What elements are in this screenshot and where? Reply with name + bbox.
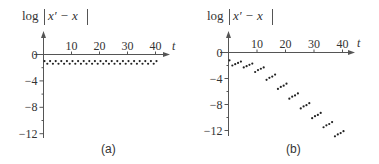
x-tick-label: 40 (337, 37, 349, 51)
data-point (147, 63, 149, 65)
data-point (97, 63, 99, 65)
data-point (63, 63, 65, 65)
x-tick-label: 10 (251, 37, 263, 51)
data-point (334, 135, 336, 137)
data-point (231, 64, 233, 66)
data-point (305, 104, 307, 106)
data-point (133, 60, 135, 62)
data-point (150, 60, 152, 62)
x-ticks: 10203040 (251, 37, 349, 53)
data-point (122, 60, 124, 62)
data-point (280, 86, 282, 88)
x-axis-arrow-icon (163, 52, 170, 57)
x-tick-label: 20 (94, 39, 106, 53)
data-point (291, 96, 293, 98)
data-point (139, 60, 141, 62)
data-point (331, 121, 333, 123)
data-point (274, 74, 276, 76)
data-point (85, 63, 87, 65)
data-point (325, 124, 327, 126)
y-tick-label: −4 (210, 72, 223, 86)
y-axis-label-log: log (207, 8, 224, 23)
x-tick-label: 30 (122, 39, 134, 53)
x-tick-label: 20 (280, 37, 292, 51)
data-point (105, 60, 107, 62)
data-point (125, 63, 127, 65)
data-point (243, 66, 245, 68)
data-point (77, 60, 79, 62)
y-ticks: 0−4−8−12 (19, 48, 44, 141)
y-axis-label-expr: x′ − x (47, 8, 78, 23)
data-point (127, 60, 129, 62)
data-point (66, 60, 68, 62)
data-point (80, 63, 82, 65)
y-tick-label: −4 (25, 74, 38, 88)
data-point (337, 133, 339, 135)
data-point (144, 60, 146, 62)
y-tick-label: −8 (210, 98, 223, 112)
data-point (294, 94, 296, 96)
data-point (303, 105, 305, 107)
data-point (271, 75, 273, 77)
data-point (260, 68, 262, 70)
data-point (60, 60, 62, 62)
data-point (308, 102, 310, 104)
data-point (153, 63, 155, 65)
data-point (283, 85, 285, 87)
data-point (155, 60, 157, 62)
data-point (52, 63, 54, 65)
data-point (111, 60, 113, 62)
data-point (317, 114, 319, 116)
y-tick-label: 0 (217, 46, 223, 60)
data-point (113, 63, 115, 65)
panel-caption: (b) (286, 142, 301, 156)
y-axis-label-expr: x′ − x (232, 8, 263, 23)
data-point (320, 112, 322, 114)
data-point (88, 60, 90, 62)
x-ticks: 10203040 (66, 39, 162, 55)
y-tick-label: −8 (25, 100, 38, 114)
data-point (130, 63, 132, 65)
data-point (263, 66, 265, 68)
y-axis-arrow-icon (41, 31, 46, 38)
data-point (46, 63, 48, 65)
data-points (43, 60, 157, 65)
data-point (297, 92, 299, 94)
data-point (311, 117, 313, 119)
data-point (246, 65, 248, 67)
x-axis-arrow-icon (348, 50, 355, 55)
y-tick-label: −12 (204, 124, 223, 138)
y-axis-arrow-icon (226, 31, 231, 38)
data-point (288, 98, 290, 100)
data-point (69, 63, 71, 65)
data-point (268, 77, 270, 79)
x-tick-label: 40 (150, 39, 162, 53)
data-point (248, 64, 250, 66)
y-tick-label: 0 (32, 48, 38, 62)
panel-caption: (a) (101, 142, 116, 156)
panel-a: log x′ − x t 10203040 0−4−8−12 (a) (19, 8, 176, 156)
data-point (300, 107, 302, 109)
data-point (340, 132, 342, 134)
data-point (108, 63, 110, 65)
data-points (228, 59, 344, 137)
data-point (71, 60, 73, 62)
data-point (228, 59, 230, 61)
data-point (277, 88, 279, 90)
y-tick-label: −12 (19, 127, 38, 141)
data-point (102, 63, 104, 65)
data-point (265, 79, 267, 81)
data-point (251, 62, 253, 64)
x-axis-label: t (172, 39, 176, 53)
data-point (285, 83, 287, 85)
data-point (136, 63, 138, 65)
x-tick-label: 30 (308, 37, 320, 51)
data-point (94, 60, 96, 62)
data-point (257, 69, 259, 71)
y-ticks: 0−4−8−12 (204, 46, 229, 138)
figure: log x′ − x t 10203040 0−4−8−12 (a) log x… (0, 0, 379, 164)
data-point (74, 63, 76, 65)
data-point (43, 60, 45, 62)
data-point (99, 60, 101, 62)
data-point (237, 62, 239, 64)
